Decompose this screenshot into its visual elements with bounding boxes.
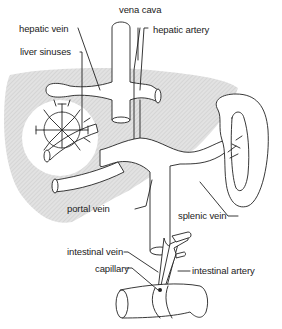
label-liver-sinuses: liver sinuses bbox=[20, 46, 71, 57]
label-portal-vein: portal vein bbox=[67, 203, 110, 214]
intestine-opening bbox=[116, 290, 128, 318]
vena-cava-branch-cap bbox=[155, 89, 161, 103]
label-splenic-vein: splenic vein bbox=[178, 210, 226, 221]
lobule-branch-cap bbox=[44, 150, 50, 162]
liver-lobule bbox=[22, 100, 98, 176]
label-capillary: capillary bbox=[95, 263, 129, 274]
capillary-dot bbox=[158, 288, 162, 292]
portal-vein-branch-cap bbox=[52, 179, 58, 193]
label-intestinal-vein: intestinal vein bbox=[67, 246, 123, 257]
intestinal-artery-branch bbox=[172, 232, 191, 242]
intestine bbox=[120, 284, 208, 318]
label-hepatic-vein: hepatic vein bbox=[19, 23, 69, 34]
label-intestinal-artery: intestinal artery bbox=[192, 265, 255, 276]
label-vena-cava: vena cava bbox=[119, 4, 161, 15]
vena-cava-cap bbox=[112, 117, 130, 123]
intestinal-vein-stub bbox=[176, 252, 186, 258]
label-hepatic-artery: hepatic artery bbox=[153, 24, 209, 35]
